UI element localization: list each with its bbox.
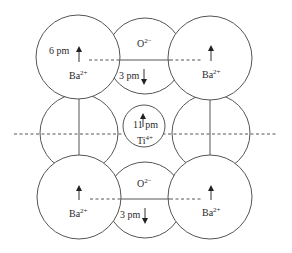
- o-bottom-displacement: 3 pm: [120, 209, 141, 220]
- batio3-displacement-diagram: 6 pm Ba2+ Ba2+ O2− 3 pm 11 pm Ti4+ Ba2+ …: [0, 0, 292, 253]
- ti-displacement: 11 pm: [133, 119, 158, 130]
- ba-top-left-displacement: 6 pm: [49, 45, 70, 56]
- barium-bottom-right: [168, 155, 252, 239]
- o-top-displacement: 3 pm: [119, 70, 140, 81]
- barium-top-left: [36, 15, 120, 99]
- barium-top-right: [168, 16, 252, 100]
